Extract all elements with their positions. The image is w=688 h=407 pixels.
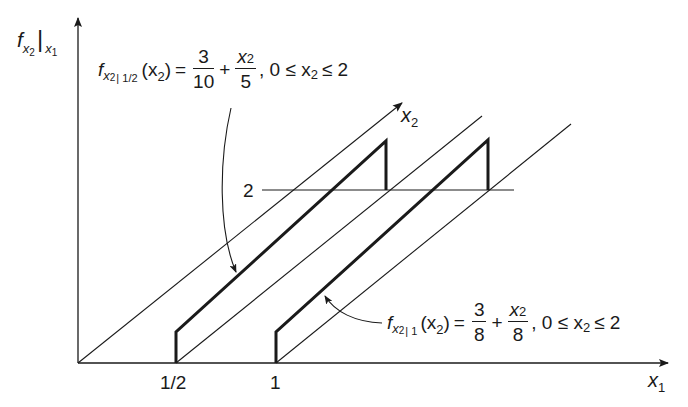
tick-label-one: 1 xyxy=(270,373,281,392)
tick-label-half: 1/2 xyxy=(160,373,186,392)
formula-conditional-one: fx2| 1 (x2) = 38 + x28 , 0 ≤ x2≤ 2 xyxy=(387,300,620,344)
pointer-arrow-half xyxy=(222,108,236,272)
depth-axis-x2 xyxy=(78,103,402,363)
density-curve-half xyxy=(176,141,386,363)
horizontal-axis-label: x1 xyxy=(648,370,665,390)
vertical-axis-label: fx2|x1 xyxy=(17,27,57,51)
formula-conditional-half: fx2| 1/2 (x2) = 310 + x25 , 0 ≤ x2≤ 2 xyxy=(98,47,348,91)
tick-label-x2-two: 2 xyxy=(243,181,254,200)
depth-axis-label: x2 xyxy=(401,105,418,125)
